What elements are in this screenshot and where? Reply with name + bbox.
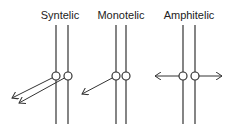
diagram-canvas: SyntelicMonotelicAmphitelic bbox=[0, 0, 235, 130]
panel-monotelic: Monotelic bbox=[82, 9, 145, 124]
panel-label: Amphitelic bbox=[164, 9, 215, 21]
kinetochore-circle bbox=[64, 72, 72, 80]
kinetochore-circle bbox=[112, 72, 120, 80]
kinetochore-circle bbox=[122, 72, 130, 80]
kinetochore-circle bbox=[191, 72, 199, 80]
kinetochore-circle bbox=[179, 72, 187, 80]
panel-label: Monotelic bbox=[97, 9, 145, 21]
microtubule-arrow bbox=[19, 76, 68, 103]
kinetochore-circle bbox=[52, 72, 60, 80]
microtubule-arrow bbox=[82, 76, 116, 94]
panel-amphitelic: Amphitelic bbox=[155, 9, 222, 124]
panel-label: Syntelic bbox=[41, 9, 80, 21]
panel-syntelic: Syntelic bbox=[12, 9, 80, 124]
